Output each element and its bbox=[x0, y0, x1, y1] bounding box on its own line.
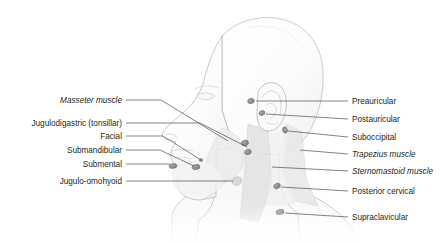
label-sternomastoid-muscle: Sternomastoid muscle bbox=[352, 167, 433, 177]
label-jugulodigastric: Jugulodigastric (tonsillar) bbox=[31, 119, 122, 129]
label-posterior-cervical: Posterior cervical bbox=[352, 187, 415, 197]
label-submental: Submental bbox=[83, 160, 122, 170]
head-neck-figure bbox=[0, 18, 445, 243]
leader-trapezius-muscle bbox=[300, 150, 348, 154]
label-trapezius-muscle: Trapezius muscle bbox=[352, 150, 416, 160]
label-masseter-muscle: Masseter muscle bbox=[60, 96, 122, 106]
label-preauricular: Preauricular bbox=[352, 97, 396, 107]
label-facial: Facial bbox=[100, 132, 122, 142]
lymph-node-diagram: Masseter muscle Jugulodigastric (tonsill… bbox=[0, 0, 445, 243]
label-submandibular: Submandibular bbox=[67, 146, 122, 156]
label-jugulo-omohyoid: Jugulo-omohyoid bbox=[60, 177, 122, 187]
label-supraclavicular: Supraclavicular bbox=[352, 213, 408, 223]
bottom-fade-overlay bbox=[0, 206, 445, 243]
label-suboccipital: Suboccipital bbox=[352, 133, 396, 143]
label-postauricular: Postauricular bbox=[352, 115, 400, 125]
